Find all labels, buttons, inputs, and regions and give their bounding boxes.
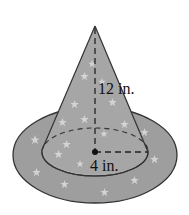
- height-label: 12 in.: [98, 81, 134, 97]
- cone-hat-diagram: [0, 0, 189, 215]
- radius-label: 4 in.: [90, 158, 118, 174]
- center-point: [92, 149, 98, 155]
